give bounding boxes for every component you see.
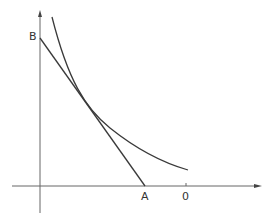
label-zero: 0 [182,190,189,203]
x-axis [12,183,262,188]
y-axis-arrow-icon [38,10,42,17]
label-b: B [29,30,37,43]
diagram-canvas: B A 0 [0,0,273,219]
label-a: A [141,190,149,203]
indifference-curve [52,17,188,170]
budget-line [40,38,145,186]
x-axis-arrow-icon [254,184,262,188]
